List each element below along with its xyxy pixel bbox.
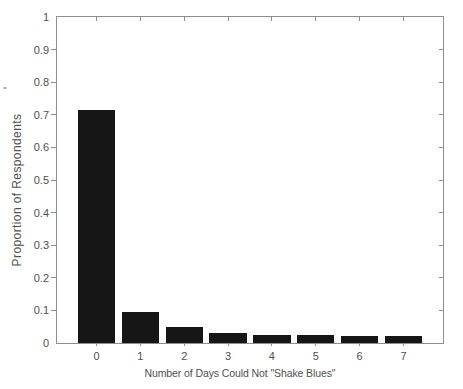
x-tick-top bbox=[184, 17, 185, 21]
x-tick-top bbox=[315, 17, 316, 21]
plot-area: 00.10.20.30.40.50.60.70.80.9101234567 bbox=[56, 16, 444, 344]
x-tick-label: 1 bbox=[125, 349, 155, 363]
bar-category-2 bbox=[166, 327, 203, 343]
x-tick-top bbox=[96, 17, 97, 21]
y-tick-left bbox=[51, 147, 56, 148]
y-tick-left bbox=[51, 180, 56, 181]
y-tick-right bbox=[439, 310, 443, 311]
y-tick-left bbox=[51, 82, 56, 83]
x-tick-label: 2 bbox=[169, 349, 199, 363]
y-tick-left bbox=[51, 49, 56, 50]
y-tick-right bbox=[439, 82, 443, 83]
bar-category-0 bbox=[78, 110, 115, 343]
x-tick-label: 4 bbox=[257, 349, 287, 363]
x-tick-top bbox=[228, 17, 229, 21]
scan-speck bbox=[3, 87, 7, 89]
y-tick-right bbox=[439, 277, 443, 278]
y-tick-left bbox=[51, 310, 56, 311]
x-tick-top bbox=[403, 17, 404, 21]
y-tick-label: 0.1 bbox=[13, 303, 49, 317]
x-tick-bottom bbox=[359, 343, 360, 346]
bar-category-5 bbox=[297, 335, 334, 343]
y-tick-label: 0.9 bbox=[13, 43, 49, 57]
y-axis-label: Proportion of Respondents bbox=[10, 114, 24, 267]
x-tick-bottom bbox=[184, 343, 185, 346]
bar-category-6 bbox=[341, 336, 378, 343]
y-tick-right bbox=[439, 180, 443, 181]
x-tick-label: 6 bbox=[345, 349, 375, 363]
y-tick-left bbox=[51, 277, 56, 278]
x-axis-label: Number of Days Could Not "Shake Blues" bbox=[145, 367, 336, 379]
bar-category-3 bbox=[209, 333, 246, 343]
x-tick-bottom bbox=[403, 343, 404, 346]
y-tick-right bbox=[439, 114, 443, 115]
y-tick-left bbox=[51, 212, 56, 213]
y-tick-left bbox=[51, 245, 56, 246]
bar-category-1 bbox=[122, 312, 159, 343]
x-tick-label: 7 bbox=[389, 349, 419, 363]
y-tick-label: 0 bbox=[13, 336, 49, 350]
x-tick-label: 3 bbox=[213, 349, 243, 363]
y-tick-right bbox=[439, 212, 443, 213]
x-tick-top bbox=[271, 17, 272, 21]
x-tick-bottom bbox=[315, 343, 316, 346]
x-tick-bottom bbox=[228, 343, 229, 346]
x-tick-bottom bbox=[140, 343, 141, 346]
y-tick-right bbox=[439, 147, 443, 148]
bar-chart-figure: 00.10.20.30.40.50.60.70.80.9101234567 Pr… bbox=[0, 0, 463, 389]
y-tick-label: 1 bbox=[13, 10, 49, 24]
x-tick-top bbox=[359, 17, 360, 21]
x-tick-bottom bbox=[96, 343, 97, 346]
y-tick-label: 0.8 bbox=[13, 75, 49, 89]
x-tick-top bbox=[140, 17, 141, 21]
y-tick-label: 0.2 bbox=[13, 271, 49, 285]
x-tick-bottom bbox=[271, 343, 272, 346]
y-tick-right bbox=[439, 245, 443, 246]
x-tick-label: 5 bbox=[301, 349, 331, 363]
y-tick-left bbox=[51, 114, 56, 115]
y-tick-right bbox=[439, 49, 443, 50]
bar-category-4 bbox=[253, 335, 290, 343]
x-tick-label: 0 bbox=[81, 349, 111, 363]
